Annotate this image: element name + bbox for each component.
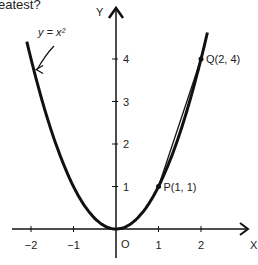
y-tick-label: 2	[123, 138, 129, 150]
parabola-chart: −2−1121234OXYP(1, 1)Q(2, 4)y = x²	[0, 0, 258, 265]
y-axis-label: Y	[96, 6, 104, 18]
point-label: Q(2, 4)	[206, 53, 240, 65]
point-label: P(1, 1)	[164, 181, 197, 193]
origin-label: O	[121, 238, 130, 250]
point-p	[156, 184, 161, 189]
y-tick-label: 1	[123, 181, 129, 193]
y-tick-label: 4	[123, 53, 129, 65]
x-tick-label: −1	[67, 239, 80, 251]
chord-pq	[159, 59, 202, 187]
point-q	[199, 57, 204, 62]
x-tick-label: 2	[198, 239, 204, 251]
y-tick-label: 3	[123, 96, 129, 108]
parabola-curve	[27, 33, 208, 230]
x-tick-label: 1	[155, 239, 161, 251]
annotation-arrowhead	[36, 66, 43, 74]
curve-equation-label: y = x²	[37, 26, 66, 38]
x-tick-label: −2	[25, 239, 38, 251]
annotation-arrow	[37, 46, 54, 70]
x-axis-label: X	[250, 239, 258, 251]
